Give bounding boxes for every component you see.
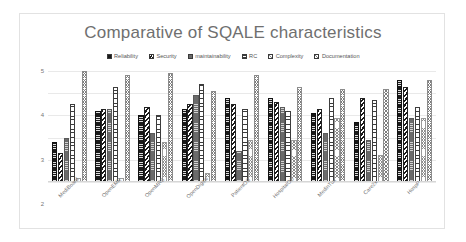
x-axis-label-cell: OpenMRS [134,183,177,223]
bar-hospp-documentation[interactable] [427,80,432,182]
x-axis-label-cell: HospP [393,183,436,223]
y-axis-tick-label: 3 [41,157,44,163]
bar-care2x-maintainability[interactable] [366,140,371,182]
bar-group-hospitalos [264,71,307,182]
bar-openemr-reliability[interactable] [95,111,100,182]
chart-legend: ReliabilitySecuritymaintainabilityRCComp… [20,54,446,60]
bar-group-patientos [220,71,263,182]
bar-group-mediboard [48,71,91,182]
legend-swatch-documentation-icon [314,54,319,59]
legend-label: Complexity [276,54,304,60]
legend-item-maintainability[interactable]: maintainability [188,54,231,60]
bar-openmrs-maintainability[interactable] [150,133,155,182]
bar-opendigital-rc[interactable] [199,84,204,182]
bar-patientos-rc[interactable] [242,109,247,182]
bar-hospitalos-rc[interactable] [285,111,290,182]
y-axis-tick-label: 2 [41,201,44,207]
bar-opendigital-maintainability[interactable] [193,95,198,182]
legend-item-documentation[interactable]: Documentation [314,54,359,60]
chart-title: Comparative of SQALE characteristics [20,23,446,43]
bar-openmrs-security[interactable] [144,107,149,182]
bar-mediboard-maintainability[interactable] [64,138,69,182]
bar-hospp-complexity[interactable] [421,118,426,182]
bar-medintux-complexity[interactable] [334,118,339,182]
x-axis-label-cell: PatientOS [220,183,263,223]
legend-swatch-maintainability-icon [188,54,193,59]
bar-patientos-reliability[interactable] [225,98,230,182]
bar-opendigital-reliability[interactable] [182,109,187,182]
bar-hospp-reliability[interactable] [397,80,402,182]
bar-patientos-security[interactable] [231,104,236,182]
bar-mediboard-rc[interactable] [70,104,75,182]
bar-hospitalos-documentation[interactable] [297,87,302,182]
bar-mediboard-security[interactable] [58,153,63,182]
legend-item-reliability[interactable]: Reliability [107,54,138,60]
figure-canvas: Comparative of SQALE characteristics Rel… [0,0,466,242]
legend-swatch-reliability-icon [107,54,112,59]
bar-group-openmrs [134,71,177,182]
bar-care2x-reliability[interactable] [354,122,359,182]
bar-hospitalos-complexity[interactable] [291,140,296,182]
x-axis-label-cell: HospitalOS [264,183,307,223]
x-axis-tick-label: Care2x [363,180,379,196]
bar-patientos-complexity[interactable] [248,140,253,182]
bar-mediboard-documentation[interactable] [82,71,87,182]
bar-openemr-security[interactable] [101,109,106,182]
y-axis-tick-label: 4 [41,112,44,118]
x-axis-tick-label: HospP [407,180,422,195]
bar-medintux-maintainability[interactable] [323,133,328,182]
bar-hospp-security[interactable] [403,87,408,182]
legend-swatch-security-icon [149,54,154,59]
bar-group-opendigital [177,71,220,182]
bar-openmrs-reliability[interactable] [138,115,143,182]
bar-opendigital-security[interactable] [187,104,192,182]
legend-label: Documentation [322,54,360,60]
x-axis-label-cell: MediBoard [48,183,91,223]
bar-medintux-rc[interactable] [329,98,334,182]
bar-group-care2x [350,71,393,182]
chart-card: Comparative of SQALE characteristics Rel… [19,13,445,229]
bar-patientos-documentation[interactable] [254,75,259,182]
bar-groups [48,71,436,182]
legend-swatch-rc-icon [242,54,247,59]
bar-medintux-security[interactable] [317,109,322,182]
bar-group-medintux [307,71,350,182]
legend-item-complexity[interactable]: Complexity [268,54,303,60]
bar-medintux-reliability[interactable] [311,113,316,182]
legend-item-security[interactable]: Security [149,54,177,60]
bar-medintux-documentation[interactable] [340,89,345,182]
x-axis-labels: MediBoardOpenEMROpenMRSOpenDigitalPatien… [48,183,436,223]
legend-label: Reliability [114,54,138,60]
bar-group-hospp [393,71,436,182]
bar-openmrs-complexity[interactable] [162,142,167,182]
legend-label: Security [156,54,176,60]
bar-care2x-documentation[interactable] [383,89,388,182]
x-axis-label-cell: Care2x [350,183,393,223]
x-axis-label-cell: MedinTux [307,183,350,223]
bar-openemr-documentation[interactable] [125,75,130,182]
legend-swatch-complexity-icon [268,54,273,59]
plot-area: 012345 [48,71,436,182]
bar-group-openemr [91,71,134,182]
bar-care2x-rc[interactable] [372,100,377,182]
bar-hospp-rc[interactable] [415,107,420,182]
bar-openmrs-documentation[interactable] [168,73,173,182]
bar-opendigital-documentation[interactable] [211,91,216,182]
bar-care2x-security[interactable] [360,98,365,182]
bar-hospitalos-reliability[interactable] [268,98,273,182]
bar-patientos-maintainability[interactable] [236,151,241,182]
bar-openemr-rc[interactable] [113,87,118,182]
bar-hospitalos-security[interactable] [274,102,279,182]
bar-hospp-maintainability[interactable] [409,118,414,182]
bar-openemr-maintainability[interactable] [107,109,112,182]
bar-openmrs-rc[interactable] [156,115,161,182]
x-axis-label-cell: OpenEMR [91,183,134,223]
bar-mediboard-reliability[interactable] [52,142,57,182]
legend-item-rc[interactable]: RC [242,54,258,60]
legend-label: RC [249,54,257,60]
y-axis-tick-label: 5 [41,68,44,74]
bar-care2x-complexity[interactable] [378,155,383,182]
x-axis-label-cell: OpenDigital [177,183,220,223]
bar-hospitalos-maintainability[interactable] [280,107,285,182]
legend-label: maintainability [195,54,230,60]
